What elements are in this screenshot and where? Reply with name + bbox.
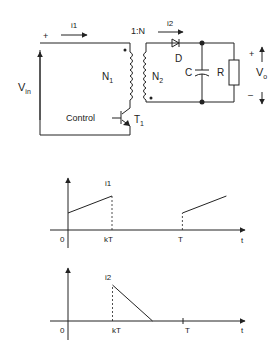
- primary-coil: [130, 52, 133, 100]
- secondary-dot: [150, 97, 153, 100]
- n1-label: N1: [102, 71, 113, 84]
- i1-tick-kt: kT: [104, 235, 113, 244]
- i2-chart-title: i2: [105, 273, 112, 282]
- i2-tick-t: T: [185, 326, 190, 335]
- t1-label: T1: [134, 114, 144, 127]
- i1-chart-title: i1: [105, 179, 112, 188]
- secondary-top-wire: [146, 43, 234, 60]
- input-plus-label: +: [43, 31, 48, 41]
- i1-label: i1: [71, 21, 78, 30]
- turns-ratio-label: 1:N: [131, 26, 145, 36]
- capacitor-label: C: [185, 67, 192, 78]
- primary-top-wire: [40, 43, 130, 52]
- i2-label: i2: [167, 19, 174, 28]
- control-label: Control: [66, 113, 95, 123]
- transistor-collector: [122, 100, 130, 114]
- primary-dot: [124, 49, 127, 52]
- diode-label: D: [175, 53, 182, 64]
- i1-x-axis-label: t: [241, 236, 244, 245]
- transistor-emitter-arrow-icon: [123, 120, 130, 126]
- i2-segment-1: [113, 285, 153, 321]
- i1-segment-0: [68, 196, 112, 213]
- circuit: + i1 1:N i2 Vin N1 N2 D C R + Vo – Contr…: [18, 19, 267, 135]
- i1-tick-0: 0: [60, 235, 65, 244]
- resistor-label: R: [217, 67, 224, 78]
- n2-label: N2: [152, 71, 163, 84]
- vo-plus-label: +: [249, 49, 254, 59]
- vin-label: Vin: [18, 81, 31, 95]
- vo-label: Vo: [256, 66, 267, 80]
- i1-tick-t: T: [178, 235, 183, 244]
- i2-waveform-chart: i2 t 0 kT T: [50, 268, 245, 340]
- resistor-icon: [229, 60, 239, 85]
- i2-tick-kt: kT: [112, 326, 121, 335]
- secondary-coil: [144, 52, 147, 100]
- secondary-bottom-wire: [146, 85, 234, 102]
- flyback-diagram: + i1 1:N i2 Vin N1 N2 D C R + Vo – Contr…: [0, 0, 280, 354]
- i2-x-axis-label: t: [241, 326, 244, 335]
- i2-tick-0: 0: [60, 326, 65, 335]
- i1-segment-3: [182, 196, 226, 213]
- i1-waveform-chart: i1 t 0 kT T: [50, 178, 245, 248]
- vo-minus-label: –: [248, 90, 253, 100]
